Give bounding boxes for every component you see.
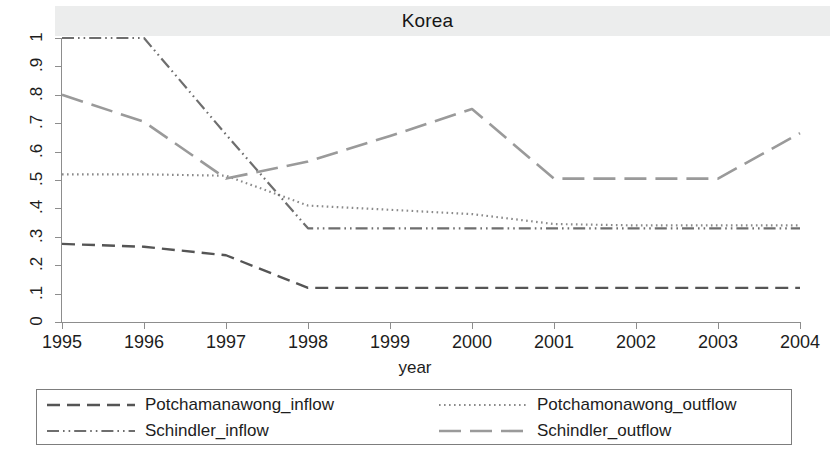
- legend-line-swatch: [45, 421, 137, 441]
- series-line: [62, 95, 800, 179]
- legend-entry[interactable]: Potchamanawong_inflow: [45, 392, 334, 418]
- y-axis-tick-label: .2: [27, 249, 47, 279]
- x-axis-tick: [226, 323, 227, 329]
- y-axis-tick: [55, 66, 61, 67]
- x-axis-tick-label: 1997: [191, 332, 261, 353]
- y-axis-tick: [55, 322, 61, 323]
- x-axis-tick: [472, 323, 473, 329]
- y-axis-tick: [55, 123, 61, 124]
- x-axis-tick: [144, 323, 145, 329]
- legend-line-swatch: [45, 395, 137, 415]
- legend-line-swatch: [437, 395, 529, 415]
- legend-line-swatch: [437, 421, 529, 441]
- x-axis-tick: [308, 323, 309, 329]
- y-axis-tick-label: .8: [27, 79, 47, 109]
- y-axis-tick-label: .4: [27, 192, 47, 222]
- x-axis-tick-label: 1999: [355, 332, 425, 353]
- legend-entry-label: Schindler_outflow: [529, 421, 671, 441]
- legend-entry-label: Potchamonawong_outflow: [529, 395, 736, 415]
- legend-entry-label: Schindler_inflow: [137, 421, 269, 441]
- y-axis-tick-label: .7: [27, 107, 47, 137]
- y-axis-tick: [55, 237, 61, 238]
- y-axis-tick: [55, 208, 61, 209]
- series-line: [62, 244, 800, 288]
- y-axis-tick: [55, 294, 61, 295]
- x-axis-tick-label: 1996: [109, 332, 179, 353]
- x-axis-tick-label: 2001: [519, 332, 589, 353]
- y-axis-tick-label: 1: [27, 22, 47, 52]
- x-axis-tick: [554, 323, 555, 329]
- y-axis-tick: [55, 95, 61, 96]
- y-axis-tick: [55, 38, 61, 39]
- x-axis-tick: [62, 323, 63, 329]
- legend-entry-label: Potchamanawong_inflow: [137, 395, 334, 415]
- x-axis-tick-label: 2004: [765, 332, 830, 353]
- y-axis-tick-label: .6: [27, 136, 47, 166]
- legend-entry[interactable]: Schindler_outflow: [437, 418, 671, 444]
- legend-entry[interactable]: Potchamonawong_outflow: [437, 392, 736, 418]
- y-axis-tick: [55, 180, 61, 181]
- y-axis-tick-label: .9: [27, 50, 47, 80]
- y-axis-tick-label: .1: [27, 278, 47, 308]
- x-axis-tick-label: 2003: [683, 332, 753, 353]
- x-axis-tick: [800, 323, 801, 329]
- y-axis-line: [61, 38, 62, 323]
- x-axis-tick-label: 1995: [27, 332, 97, 353]
- y-axis-tick-label: .3: [27, 221, 47, 251]
- x-axis-tick-label: 2000: [437, 332, 507, 353]
- x-axis-tick: [390, 323, 391, 329]
- chart-figure: Korea 0.1.2.3.4.5.6.7.8.91 1995199619971…: [0, 0, 830, 451]
- series-line: [62, 38, 800, 228]
- chart-title: Korea: [55, 8, 800, 34]
- x-axis-tick-label: 1998: [273, 332, 343, 353]
- y-axis-tick: [55, 152, 61, 153]
- y-axis-tick-label: .5: [27, 164, 47, 194]
- x-axis-line: [61, 322, 801, 323]
- series-line: [62, 174, 800, 225]
- x-axis-tick-label: 2002: [601, 332, 671, 353]
- x-axis-title: year: [0, 358, 830, 378]
- x-axis-tick: [718, 323, 719, 329]
- x-axis-tick: [636, 323, 637, 329]
- chart-legend: Potchamanawong_inflowPotchamonawong_outf…: [36, 389, 792, 445]
- y-axis-tick: [55, 265, 61, 266]
- legend-entry[interactable]: Schindler_inflow: [45, 418, 269, 444]
- series-plot-area: [0, 0, 830, 451]
